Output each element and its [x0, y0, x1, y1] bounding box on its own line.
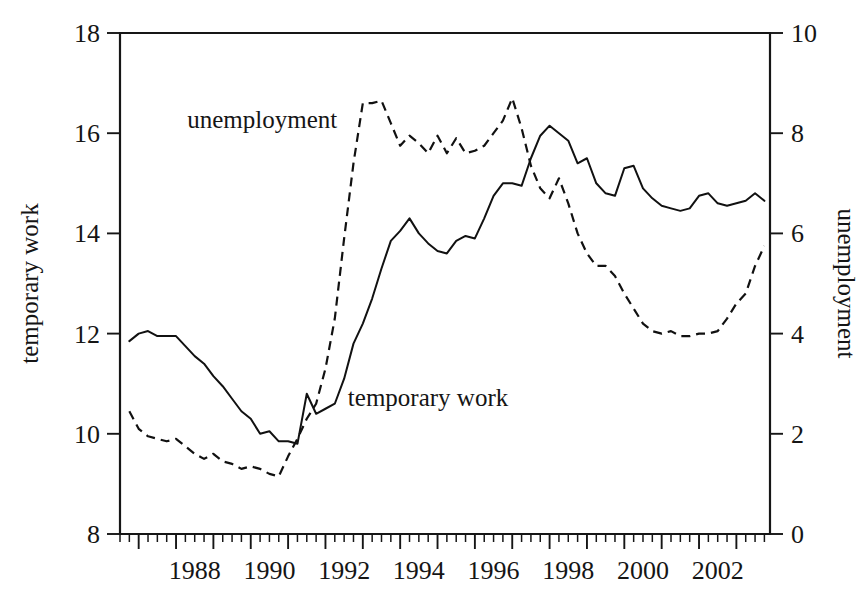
y2-axis-tick-label: 4: [791, 320, 804, 349]
y-axis-tick-label: 8: [87, 520, 100, 549]
x-axis-tick-label: 1990: [243, 556, 295, 585]
x-axis-tick-label: 2000: [617, 556, 669, 585]
y2-axis-tick-label: 10: [791, 19, 817, 48]
y-axis-tick-label: 18: [74, 19, 100, 48]
y2-axis-tick-label: 8: [791, 119, 804, 148]
axis-titles: temporary workunemployment: [16, 203, 860, 364]
series-line-unemployment: [129, 98, 764, 476]
annotation-temporary-work: temporary work: [348, 384, 509, 411]
line-chart: 8101214161802468101988199019921994199619…: [0, 0, 860, 603]
x-axis-tick-label: 1998: [542, 556, 594, 585]
y-axis-title: temporary work: [16, 203, 43, 364]
y-axis-tick-label: 14: [74, 219, 100, 248]
data-series: [129, 98, 764, 476]
y2-axis-title: unemployment: [833, 209, 860, 359]
y2-axis-tick-label: 0: [791, 520, 804, 549]
y2-axis-tick-label: 2: [791, 420, 804, 449]
x-axis-tick-label: 1992: [318, 556, 370, 585]
annotation-unemployment: unemployment: [187, 106, 337, 133]
y-axis-tick-label: 16: [74, 119, 100, 148]
y-axis-tick-label: 10: [74, 420, 100, 449]
x-axis-tick-label: 1994: [393, 556, 445, 585]
x-axis-tick-label: 2002: [692, 556, 744, 585]
x-axis-tick-label: 1996: [468, 556, 520, 585]
y-axis-tick-label: 12: [74, 320, 100, 349]
y2-axis-tick-label: 6: [791, 219, 804, 248]
chart-figure: 8101214161802468101988199019921994199619…: [0, 0, 860, 603]
axis-tick-labels: 8101214161802468101988199019921994199619…: [74, 19, 817, 585]
x-axis-tick-label: 1988: [169, 556, 221, 585]
